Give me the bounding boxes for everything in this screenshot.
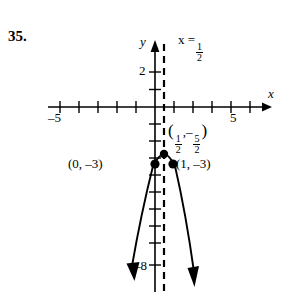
fraction-numerator: 5 <box>193 134 200 145</box>
fraction-denominator: 2 <box>193 144 200 156</box>
point-label-right: (1, –3) <box>176 156 211 172</box>
open-paren: ( <box>168 121 174 140</box>
x-axis-label-neg5: –5 <box>48 110 61 126</box>
axis-of-symmetry-equation-label: x =12 <box>178 32 204 64</box>
y-axis-label-2: 2 <box>139 63 146 79</box>
fraction-five-halves: 52 <box>193 134 200 156</box>
point-left <box>150 159 159 168</box>
vertex-minus-sign: – <box>186 124 193 139</box>
fraction-denominator: 2 <box>175 144 182 156</box>
x-axis-label-5: 5 <box>230 110 237 126</box>
fraction-numerator: 1 <box>175 134 182 145</box>
point-vertex <box>160 150 168 158</box>
x-axis-name: x <box>268 86 274 102</box>
vertex-coordinate-label: (12,–52) <box>168 122 207 156</box>
equation-lead: x = <box>178 32 195 47</box>
fraction-denominator: 2 <box>196 52 203 64</box>
fraction-one-half: 12 <box>175 134 182 156</box>
curve-arrow-right <box>188 266 200 287</box>
fraction-numerator: 1 <box>196 42 203 53</box>
point-label-left: (0, –3) <box>68 156 103 172</box>
x-axis <box>48 103 272 112</box>
figure-page: 35. <box>0 0 291 302</box>
y-axis-name: y <box>140 34 146 50</box>
fraction-one-half: 12 <box>196 42 203 64</box>
close-paren: ) <box>201 121 207 140</box>
y-axis-label-neg8: –8 <box>134 258 147 274</box>
